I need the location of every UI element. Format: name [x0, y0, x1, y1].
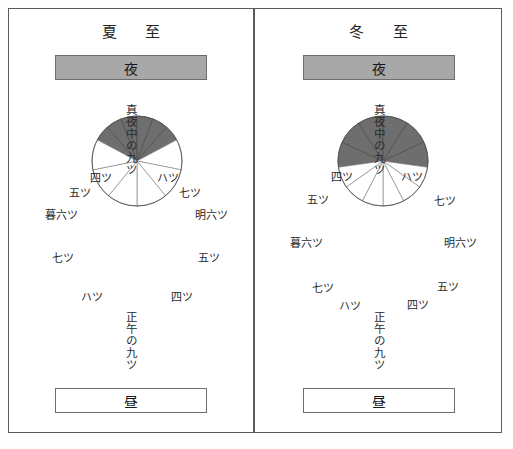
midnight-caption-summer: 真夜中の九ツ — [125, 104, 137, 176]
hour-label: 五ツ — [69, 184, 91, 200]
hour-label: 四ツ — [90, 169, 112, 185]
hour-label: 明六ツ — [195, 206, 228, 222]
hour-label: 四ツ — [331, 168, 353, 184]
noon-caption-winter: 正午の九ツ — [372, 311, 384, 371]
hour-label: ハツ — [401, 168, 423, 184]
hour-label: ハツ — [339, 297, 361, 313]
hour-label: 七ツ — [52, 249, 74, 265]
hour-label: 七ツ — [312, 279, 334, 295]
midnight-caption-winter: 真夜中の九ツ — [372, 104, 384, 176]
hour-label: 五ツ — [198, 249, 220, 265]
hour-label: 暮六ツ — [45, 206, 78, 222]
hour-label: ハツ — [157, 169, 179, 185]
jp-time-system-figure: 夏 至 夜 昼 真夜中の九ツ 正午の九ツ 冬 至 夜 昼 真夜中の九ツ 正午の九… — [0, 0, 513, 449]
noon-caption-summer: 正午の九ツ — [125, 311, 137, 371]
hour-label: 七ツ — [179, 184, 201, 200]
night-band-winter: 夜 — [303, 55, 455, 80]
panel-title-winter: 冬 至 — [255, 20, 502, 41]
hour-label: 四ツ — [407, 296, 429, 312]
panel-title-summer: 夏 至 — [8, 20, 254, 41]
night-band-summer: 夜 — [55, 55, 207, 80]
hour-label: 七ツ — [434, 192, 456, 208]
hour-label: 四ツ — [171, 288, 193, 304]
day-band-winter: 昼 — [303, 388, 455, 413]
hour-label: 五ツ — [437, 278, 459, 294]
hour-label: 五ツ — [307, 191, 329, 207]
hour-label: ハツ — [81, 288, 103, 304]
day-band-summer: 昼 — [55, 388, 207, 413]
hour-label: 暮六ツ — [290, 234, 323, 250]
panel-winter-solstice: 冬 至 夜 昼 真夜中の九ツ 正午の九ツ — [255, 8, 502, 433]
hour-label: 明六ツ — [444, 234, 477, 250]
